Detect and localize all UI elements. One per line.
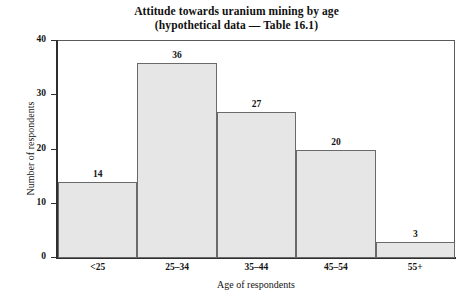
bar-<25: [58, 182, 137, 258]
bar-25–34: [137, 63, 216, 258]
x-tick-label: 55+: [376, 262, 455, 272]
histogram-figure: Attitude towards uranium mining by age (…: [0, 0, 473, 295]
y-tick-mark: [51, 257, 57, 258]
y-tick-mark: [51, 149, 57, 150]
bar-35–44: [217, 112, 296, 258]
y-tick-mark: [51, 94, 57, 95]
y-tick-label: 0: [26, 251, 46, 261]
bar-series: [58, 41, 455, 258]
y-axis-title: Number of respondents: [25, 59, 36, 239]
bar-value-label: 3: [376, 229, 455, 239]
bar-45–54: [296, 150, 375, 259]
x-tick-label: <25: [58, 262, 137, 272]
bar-value-label: 20: [296, 137, 375, 147]
bar-value-label: 36: [137, 50, 216, 60]
chart-title: Attitude towards uranium mining by age: [0, 4, 473, 18]
x-tick-label: 45–54: [296, 262, 375, 272]
x-tick-label: 35–44: [217, 262, 296, 272]
bar-value-label: 27: [217, 99, 296, 109]
bar-55+: [376, 242, 455, 258]
y-tick-mark: [51, 40, 57, 41]
x-tick-label: 25–34: [137, 262, 216, 272]
chart-subtitle: (hypothetical data — Table 16.1): [0, 18, 473, 32]
chart-title-block: Attitude towards uranium mining by age (…: [0, 4, 473, 32]
x-axis-title: Age of respondents: [57, 279, 455, 290]
y-tick-mark: [51, 203, 57, 204]
bar-value-label: 14: [58, 169, 137, 179]
y-tick-label: 40: [26, 34, 46, 44]
